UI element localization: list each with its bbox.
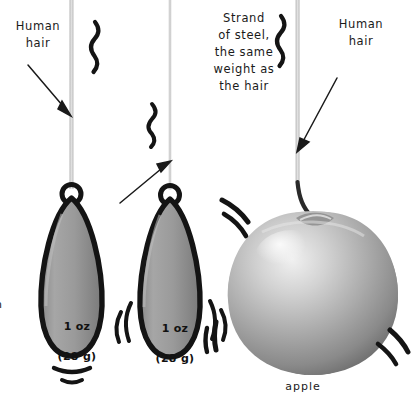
label-clipped-left-text: om (0, 296, 30, 313)
label-human-hair-left: Human hair (2, 18, 74, 52)
label-human-hair-right: Human hair (322, 16, 400, 50)
label-strand-of-steel: Strand of steel, the same weight as the … (196, 10, 292, 95)
weight-line-2: (28 g) (156, 352, 195, 365)
motion-marks-pendulum-hair (54, 368, 90, 383)
illustration-scene: Human hair Strand of steel, the same wei… (0, 0, 411, 401)
arrow-icon-left (28, 65, 71, 116)
weight-line-2: (28 g) (58, 350, 97, 363)
weight-line-1: 1 oz (64, 320, 91, 333)
squiggle-icon-middle (149, 104, 156, 147)
arrow-icon-right (297, 78, 337, 152)
thread-human-hair-right (296, 0, 300, 182)
weight-label-pendulum-steel: 1 oz (28 g) (142, 306, 208, 366)
label-apple: apple (272, 378, 334, 395)
weight-label-pendulum-hair: 1 oz (28 g) (44, 304, 110, 364)
apple (228, 182, 398, 375)
weight-line-1: 1 oz (162, 322, 189, 335)
squiggle-icon-left (91, 22, 98, 72)
arrow-icon-middle (120, 161, 171, 203)
